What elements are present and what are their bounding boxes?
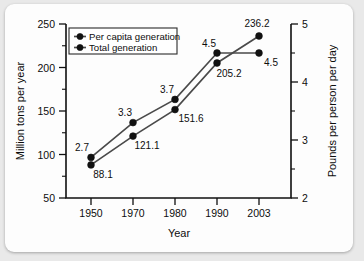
x-axis-title: Year: [168, 227, 191, 239]
y-axis-title-left: Million tons per year: [14, 61, 26, 160]
x-ticklabel-1980: 1980: [163, 207, 187, 219]
legend-label-total: Total generation: [89, 42, 157, 53]
y2-ticklabel-2: 2: [302, 192, 308, 204]
label-total-1950: 88.1: [93, 169, 113, 180]
legend-label-per-capita: Per capita generation: [89, 31, 180, 42]
legend-marker-total: [77, 44, 83, 50]
per-capita-generation-point-1980: [172, 96, 179, 103]
total-generation-point-1990: [214, 60, 221, 67]
y-ticklabel-200: 200: [37, 62, 55, 74]
y-ticklabel-250: 250: [37, 18, 55, 30]
y-axis-title-right: Pounds per person per day: [326, 44, 338, 177]
chart-legend: Per capita generation Total generation: [69, 28, 180, 54]
total-generation-point-1970: [130, 133, 137, 140]
x-ticklabel-1970: 1970: [121, 207, 145, 219]
per-capita-generation-point-1970: [130, 119, 137, 126]
chart-figure: 250 200 150 100 50 Million tons per year: [5, 4, 353, 252]
label-per-capita-1970: 3.3: [118, 107, 132, 118]
x-axis: 1950 1970 1980 1990 2003 Year: [79, 198, 271, 239]
series-per-capita-generation: [88, 50, 263, 161]
y-ticklabel-100: 100: [37, 149, 55, 161]
y2-ticklabel-3: 3: [302, 134, 308, 146]
label-per-capita-1980: 3.7: [160, 84, 174, 95]
y-left-axis: 250 200 150 100 50 Million tons per year: [14, 18, 66, 204]
x-ticklabel-1990: 1990: [205, 207, 229, 219]
y-ticklabel-150: 150: [37, 105, 55, 117]
line-chart-svg: 250 200 150 100 50 Million tons per year: [5, 4, 353, 252]
y2-ticklabel-5: 5: [302, 18, 308, 30]
x-ticklabel-2003: 2003: [247, 207, 271, 219]
total-generation-point-1980: [172, 106, 179, 113]
label-total-1990: 205.2: [216, 68, 241, 79]
total-generation-point-1950: [88, 162, 95, 169]
label-per-capita-1990: 4.5: [202, 38, 216, 49]
total-generation-point-2003: [256, 33, 263, 40]
x-ticklabel-1950: 1950: [79, 207, 103, 219]
label-per-capita-1950: 2.7: [75, 142, 89, 153]
screenshot-root: 250 200 150 100 50 Million tons per year: [0, 0, 364, 261]
per-capita-generation-point-2003: [256, 50, 263, 57]
y2-ticklabel-4: 4: [302, 76, 308, 88]
label-per-capita-2003: 4.5: [264, 57, 278, 68]
y-right-axis: 5 4 3 2 Pounds per person per day: [291, 18, 338, 204]
chart-card: 250 200 150 100 50 Million tons per year: [5, 4, 353, 252]
legend-marker-per-capita: [77, 33, 83, 39]
per-capita-generation-point-1990: [214, 50, 221, 57]
label-total-2003: 236.2: [244, 18, 269, 29]
per-capita-generation-point-1950: [88, 154, 95, 161]
label-total-1970: 121.1: [134, 140, 159, 151]
label-total-1980: 151.6: [178, 113, 203, 124]
y-ticklabel-50: 50: [43, 192, 55, 204]
